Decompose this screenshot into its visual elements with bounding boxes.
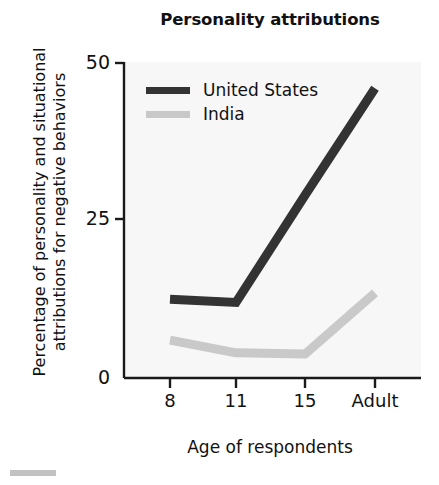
legend-item-united-states: United States [146,78,318,102]
legend-swatch-united-states [146,87,190,94]
legend-label-united-states: United States [203,82,318,99]
plot-area [0,0,439,485]
chart-figure: Personality attributions Percentage of p… [0,0,439,485]
legend-label-india: India [203,106,245,123]
chart-legend: United States India [146,78,318,126]
legend-swatch-india [146,111,190,118]
page-caption-fragment [10,470,56,476]
legend-item-india: India [146,102,318,126]
